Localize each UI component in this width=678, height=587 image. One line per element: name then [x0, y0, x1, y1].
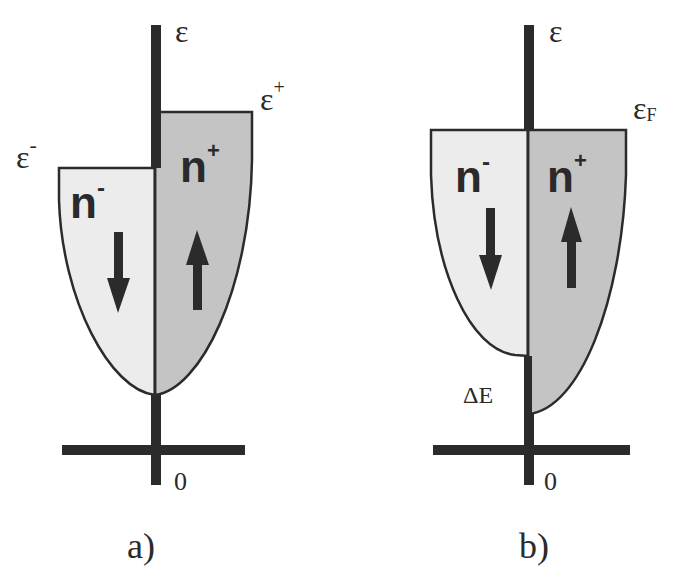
dos-axis: [433, 445, 630, 455]
energy-axis-label: ε: [175, 13, 188, 49]
energy-axis-lower: [151, 395, 161, 485]
level-plus-label: ε+: [260, 76, 285, 117]
energy-axis-label: ε: [549, 13, 562, 49]
spin-split-band-diagram: ε ε+ ε- n- n+ 0 a) ε εF n- n+ Δ: [0, 0, 678, 587]
fermi-level-label: εF: [633, 90, 656, 126]
energy-axis-step: [151, 112, 161, 168]
energy-axis-gap: [524, 356, 532, 414]
level-minus-label: ε-: [16, 132, 37, 175]
energy-axis: [151, 25, 161, 112]
panel-a: ε ε+ ε- n- n+ 0 a): [16, 13, 285, 566]
origin-label: 0: [174, 467, 187, 496]
panel-b-caption: b): [519, 526, 549, 566]
panel-b: ε εF n- n+ ΔE 0 b): [431, 13, 656, 566]
dos-axis: [62, 445, 245, 455]
panel-a-caption: a): [127, 526, 155, 566]
gap-label: ΔE: [463, 382, 493, 408]
energy-axis: [524, 25, 534, 130]
origin-label: 0: [544, 467, 557, 496]
